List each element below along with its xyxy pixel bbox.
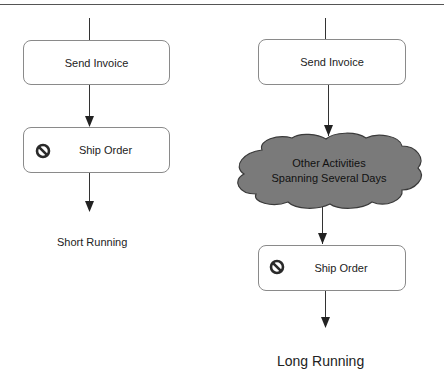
step-label: Ship Order	[277, 262, 405, 274]
arrowhead-icon	[85, 201, 94, 212]
cloud-label-line-1: Other Activities	[236, 156, 422, 171]
short-ship-order-step[interactable]: Ship Order	[23, 127, 170, 173]
long-ship-order-step[interactable]: Ship Order	[258, 245, 406, 291]
long-send-invoice-step[interactable]: Send Invoice	[258, 39, 406, 85]
other-activities-cloud-label[interactable]: Other Activities Spanning Several Days	[236, 156, 422, 186]
step-label: Send Invoice	[259, 56, 405, 68]
short-send-invoice-step[interactable]: Send Invoice	[23, 40, 170, 85]
arrowhead-icon	[321, 317, 330, 328]
arrowhead-icon	[318, 233, 327, 244]
short-running-caption: Short Running	[57, 236, 127, 248]
workflow-diagram: Send Invoice Ship Order Short Running Se…	[0, 0, 448, 381]
step-label: Send Invoice	[24, 57, 169, 69]
arrowhead-icon	[85, 116, 94, 127]
cloud-label-line-2: Spanning Several Days	[236, 171, 422, 186]
arrowhead-icon	[324, 125, 333, 136]
step-label: Ship Order	[42, 144, 169, 156]
long-running-caption: Long Running	[277, 353, 364, 369]
